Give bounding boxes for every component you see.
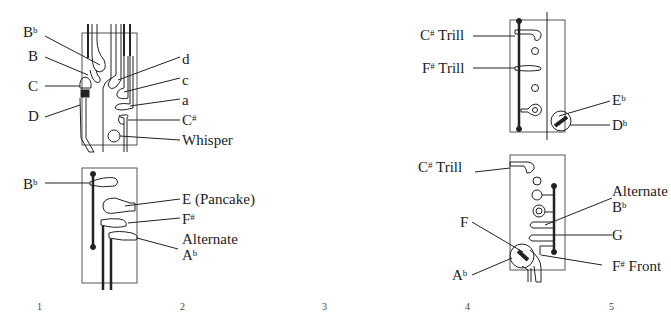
panel-top-right-drawing: [473, 12, 610, 140]
label-eflat: Eb: [612, 92, 626, 108]
panel-top-left-drawing: [45, 24, 180, 152]
label-csharp-trill-top: C# Trill: [420, 27, 464, 43]
page-number-1: 1: [37, 301, 42, 312]
label-alternate-bflat-line1: Alternate: [612, 183, 668, 199]
panel-bottom-right-drawing: [472, 155, 612, 282]
label-c: C: [28, 78, 38, 94]
label-g: G: [612, 227, 623, 243]
panel-bottom-left-drawing: [45, 168, 180, 290]
label-alternate-aflat-line2: Ab: [182, 247, 197, 263]
label-alternate-bflat-line2: Bb: [612, 199, 627, 215]
label-e-pancake: E (Pancake): [182, 191, 255, 207]
label-aflat: Ab: [452, 267, 467, 283]
label-dflat: Db: [612, 117, 627, 133]
label-fsharp: F#: [182, 211, 195, 227]
label-fsharp-front: F# Front: [612, 258, 661, 274]
label-bflat-top-left: Bb: [23, 24, 38, 40]
bassoon-key-diagram: [0, 0, 671, 332]
label-a-lower: a: [182, 92, 189, 108]
label-csharp: C#: [182, 112, 197, 128]
label-whisper: Whisper: [182, 132, 233, 148]
label-d: D: [28, 108, 39, 124]
label-b: B: [28, 48, 38, 64]
page-number-3: 3: [322, 301, 327, 312]
label-alternate-aflat-line1: Alternate: [182, 231, 238, 247]
label-csharp-trill-bottom: C# Trill: [418, 159, 462, 175]
label-bflat-bottom-left: Bb: [23, 176, 38, 192]
label-f: F: [460, 214, 468, 230]
page-number-2: 2: [180, 301, 185, 312]
page-number-5: 5: [609, 301, 614, 312]
label-fsharp-trill: F# Trill: [422, 60, 464, 76]
label-d-lower: d: [182, 51, 190, 67]
page-number-4: 4: [465, 301, 470, 312]
label-c-lower: c: [182, 72, 189, 88]
